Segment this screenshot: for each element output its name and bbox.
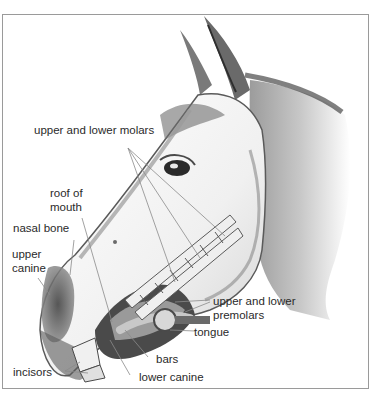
label-nasal-bone: nasal bone [13, 221, 69, 235]
label-upper-canine-line1: upper [12, 247, 41, 261]
label-upper-lower-premolars-line2: premolars [213, 308, 264, 322]
label-upper-lower-premolars-line1: upper and lower [213, 294, 295, 308]
label-lower-canine: lower canine [139, 370, 204, 384]
label-bars: bars [156, 352, 178, 366]
label-upper-canine-line2: canine [12, 261, 46, 275]
label-incisors: incisors [13, 365, 52, 379]
label-tongue: tongue [194, 325, 229, 339]
label-roof-of-mouth-line2: mouth [50, 200, 82, 214]
label-upper-lower-molars: upper and lower molars [34, 123, 154, 137]
ears [180, 16, 250, 100]
label-roof-of-mouth-line1: roof of [50, 186, 83, 200]
